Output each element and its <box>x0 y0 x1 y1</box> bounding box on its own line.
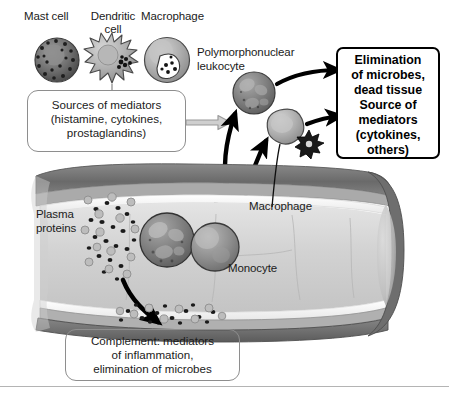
complement-box-line1: Complement: mediators <box>66 334 239 348</box>
bottom-divider <box>0 386 449 387</box>
gray-mediator-arrow <box>186 116 231 130</box>
label-dendritic-cell-line2: cell <box>105 23 122 35</box>
inflammation-diagram: Mast cell Dendritic cell Macrophage Poly… <box>0 0 449 394</box>
neutrophil-in-vessel-illustration <box>140 213 194 267</box>
complement-box-line2: of inflammation, <box>66 348 239 362</box>
label-plasma-line2: proteins <box>36 222 76 235</box>
outcome-line2: of microbes, <box>338 68 438 83</box>
sources-of-mediators-box: Sources of mediators (histamine, cytokin… <box>27 90 186 152</box>
outcome-line5: mediators <box>338 113 438 128</box>
label-pmn-line2: leukocyte <box>197 60 245 73</box>
label-monocyte: Monocyte <box>228 262 277 275</box>
dendritic-cell-illustration <box>84 33 138 83</box>
label-mast-cell: Mast cell <box>24 10 68 23</box>
label-macrophage-top: Macrophage <box>141 10 204 23</box>
outcome-line6: (cytokines, <box>338 128 438 143</box>
label-dendritic-cell: Dendritic cell <box>82 10 144 36</box>
mast-cell-illustration <box>35 38 79 82</box>
macrophage-top-illustration <box>145 38 190 83</box>
label-macrophage-vessel: Macrophage <box>249 200 312 213</box>
outcome-line3: dead tissue <box>338 83 438 98</box>
sources-box-line1: Sources of mediators <box>28 98 185 112</box>
pmn-leukocyte-illustration <box>233 72 275 114</box>
sources-box-line2: (histamine, cytokines, <box>28 112 185 126</box>
sources-box-line3: prostaglandins) <box>28 126 185 140</box>
outcome-line1: Elimination <box>338 53 438 68</box>
label-dendritic-cell-line1: Dendritic <box>91 10 135 22</box>
complement-box: Complement: mediators of inflammation, e… <box>65 329 240 381</box>
label-pmn-line1: Polymorphonuclear <box>197 46 294 59</box>
complement-box-line3: elimination of microbes <box>66 362 239 376</box>
label-plasma-line1: Plasma <box>36 208 74 221</box>
outcome-line7: others) <box>338 143 438 158</box>
outcome-line4: Source of <box>338 98 438 113</box>
outcome-box: Elimination of microbes, dead tissue Sou… <box>336 47 440 159</box>
arrow-pmn-to-outcome <box>277 70 338 84</box>
macrophage-phagocytosing-illustration <box>267 109 324 159</box>
